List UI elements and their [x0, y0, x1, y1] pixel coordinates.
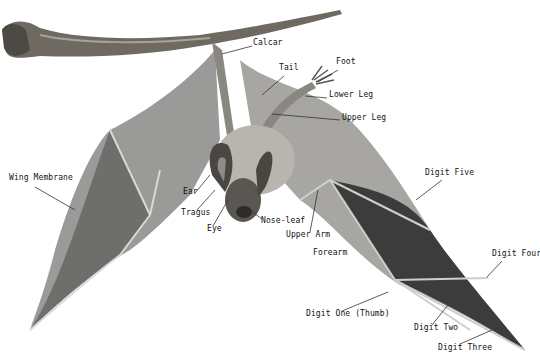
- label-upper-arm: Upper Arm: [286, 230, 330, 239]
- label-digit-three: Digit Three: [438, 343, 492, 352]
- branch: [2, 10, 342, 58]
- label-tragus: Tragus: [181, 208, 211, 217]
- label-nose-leaf: Nose-leaf: [261, 216, 305, 225]
- label-tail: Tail: [279, 63, 299, 72]
- bat-anatomy-diagram: Calcar Tail Foot Lower Leg Upper Leg Win…: [0, 0, 540, 357]
- label-digit-four: Digit Four: [492, 249, 540, 258]
- label-forearm: Forearm: [313, 248, 347, 257]
- bat-illustration: [0, 0, 540, 357]
- label-digit-five: Digit Five: [425, 168, 474, 177]
- label-digit-one-thumb: Digit One (Thumb): [306, 309, 390, 318]
- label-foot: Foot: [336, 57, 356, 66]
- label-upper-leg: Upper Leg: [342, 113, 386, 122]
- label-digit-two: Digit Two: [414, 323, 458, 332]
- label-eye: Eye: [207, 224, 222, 233]
- bat-body: [210, 125, 295, 222]
- label-ear: Ear: [183, 187, 198, 196]
- label-lower-leg: Lower Leg: [329, 90, 373, 99]
- label-wing-membrane: Wing Membrane: [9, 173, 73, 182]
- label-calcar: Calcar: [253, 38, 283, 47]
